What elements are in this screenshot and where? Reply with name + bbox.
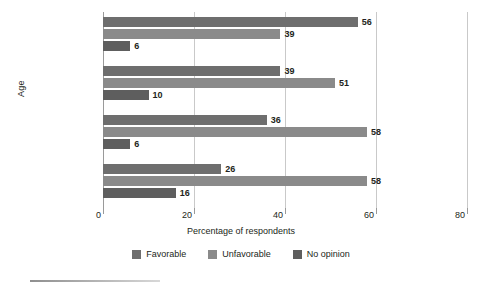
legend-label: Unfavorable xyxy=(222,249,271,259)
x-tick-label-40: 40 xyxy=(273,210,285,220)
bar-chart-figure: Age 5639639511036586265816 Percentage of… xyxy=(0,0,482,288)
x-tick-label-80: 80 xyxy=(455,210,467,220)
legend-item[interactable]: Unfavorable xyxy=(208,249,271,259)
plot-area: 5639639511036586265816 xyxy=(103,12,467,208)
bar-value-label: 39 xyxy=(284,66,294,76)
bar xyxy=(103,127,367,137)
bar-value-label: 16 xyxy=(180,188,190,198)
x-tick-0 xyxy=(103,208,104,214)
x-tick-40 xyxy=(285,208,286,214)
legend-swatch-icon xyxy=(208,250,217,259)
bar xyxy=(103,17,358,27)
bar xyxy=(103,78,335,88)
bar-value-label: 58 xyxy=(371,127,381,137)
x-tick-20 xyxy=(194,208,195,214)
x-axis-title: Percentage of respondents xyxy=(0,226,482,236)
bar xyxy=(103,176,367,186)
bar-group: 395110 xyxy=(103,66,467,100)
bar-value-label: 10 xyxy=(153,90,163,100)
bar-value-label: 56 xyxy=(362,17,372,27)
x-tick-60 xyxy=(376,208,377,214)
bar xyxy=(103,139,130,149)
legend-label: No opinion xyxy=(307,249,350,259)
bar-value-label: 6 xyxy=(134,41,139,51)
bar-value-label: 36 xyxy=(271,115,281,125)
bar-value-label: 6 xyxy=(134,139,139,149)
x-tick-label-0: 0 xyxy=(96,210,103,220)
legend-swatch-icon xyxy=(132,250,141,259)
bar-group: 36586 xyxy=(103,115,467,149)
legend-item[interactable]: No opinion xyxy=(293,249,350,259)
bottom-rule xyxy=(30,280,160,282)
x-tick-label-20: 20 xyxy=(182,210,194,220)
gridline-80 xyxy=(467,12,468,208)
bar xyxy=(103,115,267,125)
bar-group: 56396 xyxy=(103,17,467,51)
legend-label: Favorable xyxy=(146,249,186,259)
bar-group: 265816 xyxy=(103,164,467,198)
bar-value-label: 26 xyxy=(225,164,235,174)
legend-item[interactable]: Favorable xyxy=(132,249,186,259)
x-tick-80 xyxy=(467,208,468,214)
bar xyxy=(103,90,149,100)
legend-swatch-icon xyxy=(293,250,302,259)
bar xyxy=(103,66,280,76)
chart-legend: FavorableUnfavorableNo opinion xyxy=(0,249,482,259)
bar xyxy=(103,164,221,174)
bar xyxy=(103,41,130,51)
x-tick-label-60: 60 xyxy=(364,210,376,220)
bar-value-label: 58 xyxy=(371,176,381,186)
bar-value-label: 51 xyxy=(339,78,349,88)
bar-value-label: 39 xyxy=(284,29,294,39)
y-axis-title: Age xyxy=(16,80,26,97)
bar xyxy=(103,29,280,39)
bar xyxy=(103,188,176,198)
